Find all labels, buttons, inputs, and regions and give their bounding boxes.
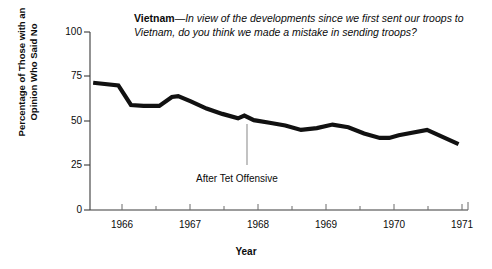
x-axis-ticks	[122, 202, 468, 210]
data-series-line	[93, 83, 458, 144]
y-axis-ticks	[84, 32, 90, 210]
chart-plot	[0, 0, 492, 269]
chart-figure: Vietnam—In view of the developments sinc…	[0, 0, 492, 269]
axis-lines	[90, 32, 468, 210]
